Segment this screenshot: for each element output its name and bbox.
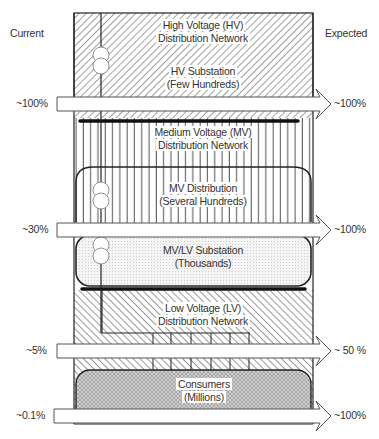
mvlv-substation-line2: (Thousands): [175, 257, 232, 269]
arrow-2-current: ~30%: [22, 223, 48, 235]
mv-distribution-label: MV Distribution (Several Hundreds): [129, 182, 277, 208]
mv-network-label: Medium Voltage (MV) Distribution Network: [129, 126, 277, 152]
transformer-icon-hv: [93, 47, 109, 74]
mv-distribution-line1: MV Distribution: [167, 182, 239, 194]
expected-header: Expected: [325, 27, 367, 39]
mv-distribution-line2: (Several Hundreds): [157, 195, 248, 207]
transformer-icon-mvlv: [93, 237, 109, 264]
mvlv-substation-line1: MV/LV Substation: [163, 244, 243, 256]
hv-substation-line1: HV Substation: [169, 65, 238, 77]
lv-network-line1: Low Voltage (LV): [163, 302, 243, 314]
hv-network-line1: High Voltage (HV): [161, 19, 246, 31]
current-header: Current: [10, 27, 44, 39]
arrow-3-current: ~5%: [26, 344, 47, 356]
arrow-3-expected: ~ 50 %: [334, 344, 366, 356]
consumers-line1: Consumers: [176, 378, 232, 390]
consumers-label: Consumers (Millions): [154, 378, 254, 404]
hv-network-label: High Voltage (HV) Distribution Network: [139, 19, 267, 45]
hv-substation-line2: (Few Hundreds): [165, 78, 241, 90]
hv-network-line2: Distribution Network: [156, 32, 250, 44]
consumers-line2: (Millions): [182, 391, 226, 403]
lv-network-line2: Distribution Network: [156, 315, 250, 327]
mvlv-substation-label: MV/LV Substation (Thousands): [129, 244, 277, 270]
arrow-1-expected: ~100%: [334, 97, 366, 109]
arrow-2-expected: ~100%: [334, 223, 366, 235]
arrow-4-current: ~0.1%: [16, 409, 45, 421]
mv-network-line2: Distribution Network: [156, 139, 250, 151]
arrow-4-expected: ~100%: [334, 409, 366, 421]
transformer-icon-mv: [93, 182, 109, 209]
mv-network-line1: Medium Voltage (MV): [152, 126, 253, 138]
hv-substation-label: HV Substation (Few Hundreds): [139, 65, 267, 91]
lv-network-label: Low Voltage (LV) Distribution Network: [129, 302, 277, 328]
arrow-1-current: ~100%: [16, 97, 48, 109]
